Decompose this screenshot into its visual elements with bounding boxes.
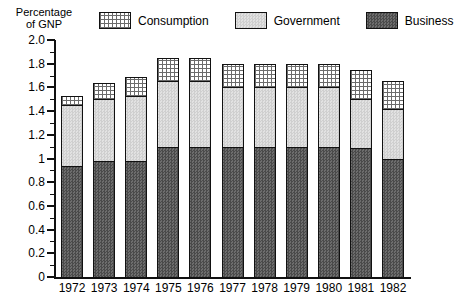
bar-segment-business[interactable]	[254, 147, 276, 277]
stacked-bar[interactable]	[189, 58, 211, 277]
x-axis-label: 1979	[283, 282, 310, 294]
bar-slot: 1976	[184, 40, 216, 277]
y-tick-label: 1.2	[28, 129, 45, 141]
legend-label-business: Business	[405, 14, 454, 28]
bar-segment-business[interactable]	[125, 161, 147, 277]
stacked-bar[interactable]	[254, 64, 276, 277]
y-tick-major	[47, 63, 55, 65]
x-axis-label: 1973	[91, 282, 118, 294]
y-tick-label: 0.4	[28, 224, 45, 236]
bar-slot: 1980	[313, 40, 345, 277]
legend-label-consumption: Consumption	[138, 14, 209, 28]
stacked-bar[interactable]	[382, 81, 404, 277]
stacked-bar[interactable]	[157, 58, 179, 277]
y-tick-label: 1.6	[28, 81, 45, 93]
y-tick-minor	[50, 218, 55, 219]
x-axis-label: 1981	[348, 282, 375, 294]
bar-slot: 1979	[281, 40, 313, 277]
bar-slot: 1972	[56, 40, 88, 277]
bar-segment-consumption[interactable]	[350, 70, 372, 100]
legend-swatch-business-icon	[366, 12, 398, 29]
bar-segment-consumption[interactable]	[254, 64, 276, 88]
bar-segment-business[interactable]	[382, 159, 404, 278]
bar-segment-consumption[interactable]	[61, 96, 83, 105]
bar-segment-government[interactable]	[350, 99, 372, 148]
y-tick-label: 0.8	[28, 176, 45, 188]
bar-slot: 1973	[88, 40, 120, 277]
bar-segment-business[interactable]	[350, 148, 372, 277]
chart-plot-area: 00.20.40.60.811.21.41.61.82.0 1972197319…	[56, 40, 409, 277]
bar-segment-consumption[interactable]	[93, 83, 115, 100]
y-tick-major	[47, 229, 55, 231]
y-tick-label: 0.2	[28, 247, 45, 259]
bar-segment-government[interactable]	[93, 99, 115, 161]
bar-group: 1972197319741975197619771978197919801981…	[56, 40, 409, 277]
y-tick-major	[47, 276, 55, 278]
stacked-bar[interactable]	[286, 64, 308, 277]
bar-slot: 1974	[120, 40, 152, 277]
bar-segment-government[interactable]	[254, 87, 276, 146]
y-tick-label: 1	[38, 153, 45, 165]
y-tick-minor	[50, 194, 55, 195]
y-tick-label: 1.4	[28, 105, 45, 117]
bar-segment-consumption[interactable]	[189, 58, 211, 82]
bar-segment-consumption[interactable]	[318, 64, 340, 88]
y-tick-major	[47, 205, 55, 207]
bar-segment-government[interactable]	[286, 87, 308, 146]
y-tick-major	[47, 158, 55, 160]
y-tick-label: 0.6	[28, 200, 45, 212]
bar-segment-business[interactable]	[93, 161, 115, 277]
x-axis-line	[54, 277, 411, 279]
bar-segment-consumption[interactable]	[157, 58, 179, 82]
stacked-bar[interactable]	[350, 70, 372, 277]
legend-label-government: Government	[274, 14, 340, 28]
y-tick-major	[47, 110, 55, 112]
y-tick-label: 0	[38, 271, 45, 283]
bar-slot: 1981	[345, 40, 377, 277]
stacked-bar[interactable]	[222, 64, 244, 277]
x-axis-label: 1972	[59, 282, 86, 294]
bar-slot: 1982	[377, 40, 409, 277]
x-axis-label: 1975	[155, 282, 182, 294]
y-tick-label: 1.8	[28, 58, 45, 70]
x-axis-label: 1977	[219, 282, 246, 294]
legend-item-government: Government	[235, 12, 340, 29]
x-axis-label: 1980	[315, 282, 342, 294]
chart-legend: Consumption Government Business	[99, 12, 458, 29]
y-tick-minor	[50, 170, 55, 171]
legend-swatch-government-icon	[235, 12, 267, 29]
bar-segment-government[interactable]	[189, 81, 211, 146]
y-axis-title: Percentage of GNP	[8, 6, 80, 30]
x-axis-label: 1982	[380, 282, 407, 294]
y-tick-minor	[50, 265, 55, 266]
y-tick-major	[47, 39, 55, 41]
bar-segment-government[interactable]	[382, 109, 404, 159]
y-tick-minor	[50, 76, 55, 77]
stacked-bar[interactable]	[93, 83, 115, 277]
stacked-bar[interactable]	[125, 77, 147, 277]
y-tick-minor	[50, 123, 55, 124]
legend-item-consumption: Consumption	[99, 12, 209, 29]
bar-segment-government[interactable]	[318, 87, 340, 146]
bar-segment-business[interactable]	[189, 147, 211, 277]
bar-segment-business[interactable]	[286, 147, 308, 277]
bar-segment-government[interactable]	[157, 81, 179, 146]
y-tick-minor	[50, 52, 55, 53]
legend-swatch-consumption-icon	[99, 12, 131, 29]
stacked-bar[interactable]	[318, 64, 340, 277]
bar-segment-business[interactable]	[318, 147, 340, 277]
bar-segment-consumption[interactable]	[222, 64, 244, 88]
y-tick-major	[47, 86, 55, 88]
bar-segment-government[interactable]	[61, 105, 83, 165]
bar-segment-business[interactable]	[157, 147, 179, 277]
stacked-bar[interactable]	[61, 96, 83, 277]
bar-segment-government[interactable]	[222, 87, 244, 146]
bar-segment-consumption[interactable]	[286, 64, 308, 88]
bar-slot: 1978	[249, 40, 281, 277]
bar-segment-business[interactable]	[222, 147, 244, 277]
bar-segment-government[interactable]	[125, 96, 147, 161]
bar-segment-consumption[interactable]	[125, 77, 147, 96]
bar-slot: 1977	[216, 40, 248, 277]
bar-segment-consumption[interactable]	[382, 81, 404, 108]
bar-segment-business[interactable]	[61, 166, 83, 277]
